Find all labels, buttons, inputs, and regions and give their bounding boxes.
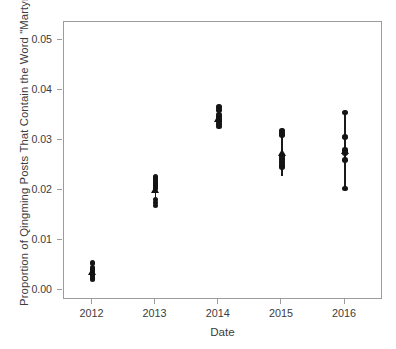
data-point	[342, 186, 348, 192]
y-tick-mark	[57, 89, 62, 90]
y-tick-mark	[57, 139, 62, 140]
mean-marker	[88, 268, 96, 275]
data-point	[90, 276, 96, 282]
y-tick-mark	[57, 239, 62, 240]
y-tick-mark	[57, 289, 62, 290]
x-axis-title: Date	[63, 325, 382, 338]
data-point	[342, 157, 348, 163]
y-tick-label: 0.02	[16, 183, 52, 195]
mean-marker	[278, 149, 286, 156]
data-point	[279, 164, 285, 170]
y-tick-label: 0.01	[16, 233, 52, 245]
y-axis-title: Proportion of Qingming Posts That Contai…	[18, 6, 30, 306]
chart-figure: Proportion of Qingming Posts That Contai…	[0, 0, 396, 349]
data-point	[342, 134, 348, 140]
data-point	[216, 124, 222, 130]
x-tick-mark	[154, 299, 155, 304]
x-tick-mark	[280, 299, 281, 304]
x-tick-mark	[217, 299, 218, 304]
data-point	[153, 203, 159, 209]
y-tick-label: 0.03	[16, 133, 52, 145]
plot-area	[63, 21, 382, 299]
y-tick-label: 0.05	[16, 33, 52, 45]
y-tick-label: 0.04	[16, 83, 52, 95]
mean-marker	[341, 147, 349, 154]
x-tick-label: 2016	[321, 307, 367, 319]
mean-marker	[151, 186, 159, 193]
data-point	[342, 110, 348, 116]
y-tick-label: 0.00	[16, 283, 52, 295]
y-tick-mark	[57, 39, 62, 40]
x-tick-label: 2014	[195, 307, 241, 319]
x-tick-mark	[91, 299, 92, 304]
y-tick-mark	[57, 189, 62, 190]
x-tick-mark	[344, 299, 345, 304]
x-tick-label: 2013	[132, 307, 178, 319]
x-tick-label: 2012	[68, 307, 114, 319]
x-tick-label: 2015	[258, 307, 304, 319]
data-point	[279, 132, 285, 138]
mean-marker	[214, 115, 222, 122]
